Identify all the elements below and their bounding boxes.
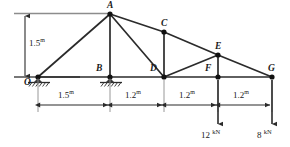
dim-height-value: 1.5 xyxy=(29,38,40,48)
load-label-12kN: 12 kN xyxy=(201,129,220,140)
truss-diagram-figure: O A B C D E F G 1.5m 1.5m 1.2m 1.2m 1.2m… xyxy=(0,0,290,147)
dimension-label-span-2: 1.2m xyxy=(125,89,141,100)
joint-D xyxy=(161,74,166,79)
load-arrows xyxy=(218,80,272,124)
node-label-E: E xyxy=(215,42,221,52)
node-label-F: F xyxy=(205,64,211,74)
joint-G xyxy=(269,74,274,79)
member-C-E xyxy=(164,32,218,55)
load-12-unit: kN xyxy=(212,128,220,135)
load-12-value: 12 xyxy=(201,130,210,140)
dim-span-2-unit: m xyxy=(136,89,141,95)
dim-span-2-value: 1.2 xyxy=(125,90,136,100)
node-label-D: D xyxy=(150,64,157,74)
origin-label-O: O xyxy=(24,78,31,88)
node-label-A: A xyxy=(107,1,113,11)
joint-C xyxy=(161,29,166,34)
load-label-8kN: 8 kN xyxy=(257,129,272,140)
support-pin-o-icon xyxy=(28,78,50,87)
dim-height-unit: m xyxy=(40,37,45,43)
dim-span-4-unit: m xyxy=(244,89,249,95)
support-pin-b-icon xyxy=(100,78,122,87)
joint-F xyxy=(215,74,220,79)
dim-span-1-value: 1.5 xyxy=(58,90,69,100)
dim-span-4-value: 1.2 xyxy=(233,90,244,100)
truss-diagram-canvas xyxy=(0,0,290,147)
dim-span-1-unit: m xyxy=(69,89,74,95)
node-label-C: C xyxy=(161,19,167,29)
dimension-label-span-3: 1.2m xyxy=(179,89,195,100)
dimension-label-height: 1.5m xyxy=(29,37,45,48)
joint-A xyxy=(107,11,112,16)
node-label-B: B xyxy=(96,64,102,74)
load-8-unit: kN xyxy=(264,128,272,135)
dim-span-3-unit: m xyxy=(190,89,195,95)
joint-E xyxy=(215,52,220,57)
node-label-G: G xyxy=(268,64,275,74)
dim-span-3-value: 1.2 xyxy=(179,90,190,100)
member-E-G xyxy=(218,55,272,77)
dimension-label-span-1: 1.5m xyxy=(58,89,74,100)
load-8-value: 8 xyxy=(257,130,262,140)
dimension-label-span-4: 1.2m xyxy=(233,89,249,100)
